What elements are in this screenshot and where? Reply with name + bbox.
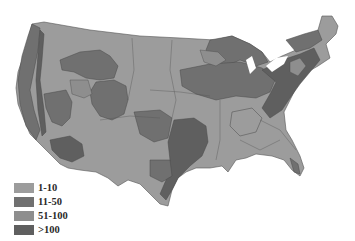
legend-swatch [14,211,34,221]
legend: 1-10 11-50 51-100 >100 [14,181,68,237]
legend-item-over-100: >100 [14,223,68,236]
legend-item-11-50: 11-50 [14,195,68,208]
legend-swatch [14,183,34,193]
legend-item-1-10: 1-10 [14,181,68,194]
legend-swatch [14,197,34,207]
legend-item-51-100: 51-100 [14,209,68,222]
legend-label: 51-100 [38,210,68,222]
legend-label: 1-10 [38,182,57,194]
legend-label: >100 [38,224,60,236]
legend-label: 11-50 [38,196,62,208]
legend-swatch [14,225,34,235]
